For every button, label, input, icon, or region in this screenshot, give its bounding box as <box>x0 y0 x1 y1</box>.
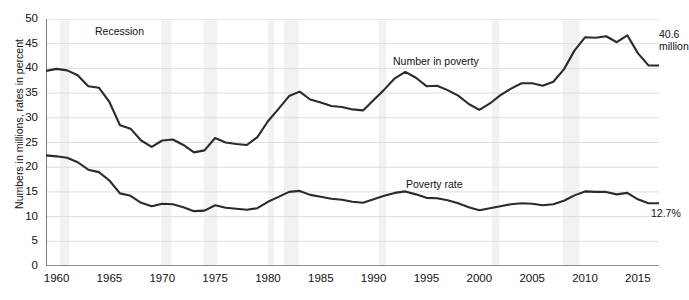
x-tick-label: 2005 <box>507 272 557 284</box>
poverty-chart: Numbers in millions, rates in percent 05… <box>0 0 689 300</box>
x-tick-label: 1975 <box>190 272 240 284</box>
x-tick-label: 1990 <box>349 272 399 284</box>
plot-area <box>46 19 659 266</box>
y-tick-label: 10 <box>4 211 38 222</box>
y-tick-label: 30 <box>4 112 38 123</box>
y-tick-label: 40 <box>4 62 38 73</box>
poverty-rate-annotation: Poverty rate <box>406 178 463 190</box>
chart-svg <box>46 19 659 266</box>
x-tick-label: 1965 <box>84 272 134 284</box>
y-tick-label: 35 <box>4 87 38 98</box>
x-tick-label: 2015 <box>613 272 663 284</box>
y-tick-label: 5 <box>4 235 38 246</box>
x-tick-label: 2000 <box>454 272 504 284</box>
x-tick-label: 1960 <box>32 272 82 284</box>
end-label-line: million <box>659 40 689 52</box>
number-in-poverty-end-label: 40.6million <box>659 28 689 52</box>
y-tick-label: 15 <box>4 186 38 197</box>
end-label-line: 40.6 <box>659 28 689 40</box>
y-tick-label: 45 <box>4 38 38 49</box>
y-tick-label: 50 <box>4 13 38 24</box>
y-tick-label: 20 <box>4 161 38 172</box>
x-tick-label: 2010 <box>560 272 610 284</box>
recession-annotation: Recession <box>95 25 144 37</box>
poverty-rate-end-label: 12.7% <box>651 207 681 219</box>
number-in-poverty-annotation: Number in poverty <box>393 55 479 67</box>
x-tick-label: 1970 <box>137 272 187 284</box>
y-tick-label: 25 <box>4 137 38 148</box>
y-tick-label: 0 <box>4 260 38 271</box>
x-tick-label: 1995 <box>401 272 451 284</box>
x-tick-label: 1985 <box>296 272 346 284</box>
x-tick-label: 1980 <box>243 272 293 284</box>
